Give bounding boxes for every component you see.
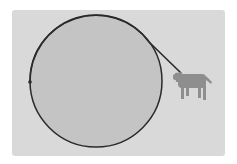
silo-cow-diagram: [0, 0, 237, 164]
rope-anchor-point: [28, 80, 32, 84]
